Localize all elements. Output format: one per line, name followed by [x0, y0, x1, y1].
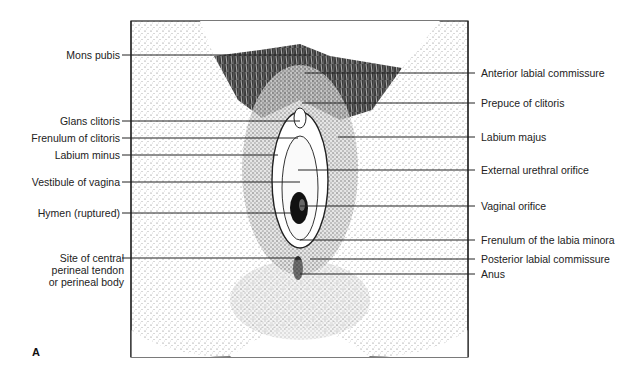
- label-prepuce: Prepuce of clitoris: [481, 97, 564, 109]
- label-posterior-commissure: Posterior labial commissure: [481, 253, 610, 265]
- label-labium-majus: Labium majus: [481, 131, 546, 143]
- figure-letter: A: [32, 346, 40, 358]
- label-mons-pubis: Mons pubis: [66, 49, 120, 61]
- label-frenulum-clitoris: Frenulum of clitoris: [31, 132, 120, 144]
- label-glans-clitoris: Glans clitoris: [60, 115, 120, 127]
- label-anus: Anus: [481, 268, 505, 280]
- label-urethral-orifice: External urethral orifice: [481, 164, 589, 176]
- anatomy-diagram: Mons pubis Glans clitoris Frenulum of cl…: [0, 0, 640, 380]
- label-vaginal-orifice: Vaginal orifice: [481, 200, 546, 212]
- label-vestibule: Vestibule of vagina: [32, 176, 120, 188]
- label-perineal-body: Site of central perineal tendon or perin…: [49, 252, 124, 288]
- label-anterior-commissure: Anterior labial commissure: [481, 67, 605, 79]
- label-frenulum-labia: Frenulum of the labia minora: [481, 234, 615, 246]
- label-hymen: Hymen (ruptured): [38, 207, 120, 219]
- label-labium-minus: Labium minus: [55, 149, 120, 161]
